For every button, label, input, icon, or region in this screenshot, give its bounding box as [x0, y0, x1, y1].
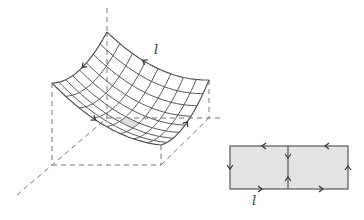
surface-grid-line: [59, 82, 167, 142]
surface-figure: [0, 0, 364, 220]
surface-boundary-label: l: [154, 42, 158, 57]
surface-grid-line: [80, 70, 186, 125]
surface-grid-line: [66, 44, 120, 97]
stokes-diagram: l l: [0, 0, 364, 220]
surface-grid-line: [161, 80, 209, 145]
parameter-rectangle: [230, 146, 348, 189]
axis-dashed-line: [17, 118, 107, 195]
rectangle-boundary-label: l: [252, 193, 256, 208]
